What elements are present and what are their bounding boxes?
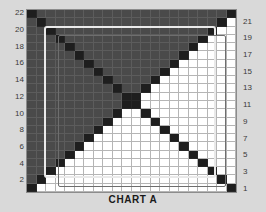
heatmap-cell [113,142,123,150]
heatmap-cell [122,43,132,51]
heatmap-cell [217,184,227,192]
heatmap-cell [227,51,237,59]
heatmap-cell [56,35,66,43]
left-value-axis: 222018161412108642 [2,9,24,193]
heatmap-cell [227,134,237,142]
heatmap-cell [94,35,104,43]
heatmap-cell [37,142,47,150]
heatmap-cell [75,60,85,68]
heatmap-cell [132,109,142,117]
heatmap-cell [46,68,56,76]
heatmap-cell [217,27,227,35]
heatmap-grid[interactable] [27,10,236,192]
heatmap-cell [160,134,170,142]
heatmap-cell [217,10,227,18]
heatmap-cell [84,51,94,59]
heatmap-cell [217,60,227,68]
heatmap-cell [56,109,66,117]
heatmap-cell [160,118,170,126]
heatmap-cell [27,159,37,167]
heatmap-cell [56,126,66,134]
heatmap-cell [94,184,104,192]
heatmap-cell [198,76,208,84]
heatmap-cell [65,51,75,59]
heatmap-cell [94,27,104,35]
heatmap-cell [160,84,170,92]
heatmap-cell [56,68,66,76]
heatmap-cell [46,109,56,117]
heatmap-cell [179,93,189,101]
heatmap-cell [179,134,189,142]
heatmap-cell [84,109,94,117]
heatmap-cell [65,27,75,35]
heatmap-cell [132,151,142,159]
heatmap-cell [103,101,113,109]
heatmap-cell [113,10,123,18]
heatmap-cell [208,142,218,150]
heatmap-cell [170,175,180,183]
heatmap-cell [189,151,199,159]
chart-plot-area[interactable] [26,9,237,193]
heatmap-cell [160,43,170,51]
heatmap-cell [198,101,208,109]
heatmap-cell [227,126,237,134]
heatmap-cell [179,101,189,109]
heatmap-cell [217,93,227,101]
heatmap-cell [103,118,113,126]
heatmap-cell [170,134,180,142]
heatmap-cell [103,51,113,59]
heatmap-cell [141,10,151,18]
heatmap-cell [65,43,75,51]
heatmap-cell [227,175,237,183]
heatmap-cell [94,118,104,126]
heatmap-cell [189,84,199,92]
heatmap-cell [122,159,132,167]
heatmap-cell [132,134,142,142]
left-axis-tick: 4 [2,160,24,168]
right-axis-tick: 7 [243,135,265,143]
heatmap-cell [65,151,75,159]
heatmap-cell [84,159,94,167]
heatmap-cell [75,142,85,150]
heatmap-cell [103,134,113,142]
heatmap-cell [84,142,94,150]
heatmap-cell [84,43,94,51]
heatmap-cell [151,84,161,92]
heatmap-cell [170,159,180,167]
heatmap-cell [132,84,142,92]
heatmap-cell [189,35,199,43]
heatmap-cell [122,10,132,18]
heatmap-cell [179,142,189,150]
heatmap-cell [65,60,75,68]
heatmap-cell [46,167,56,175]
heatmap-cell [217,159,227,167]
heatmap-cell [122,84,132,92]
chart-caption: CHART A [0,194,266,205]
heatmap-cell [170,184,180,192]
heatmap-cell [27,101,37,109]
heatmap-cell [75,84,85,92]
heatmap-cell [151,118,161,126]
heatmap-cell [179,76,189,84]
heatmap-cell [56,60,66,68]
heatmap-cell [170,10,180,18]
heatmap-cell [227,101,237,109]
heatmap-cell [27,109,37,117]
heatmap-cell [160,109,170,117]
heatmap-cell [160,68,170,76]
heatmap-cell [122,60,132,68]
heatmap-cell [170,84,180,92]
right-axis-tick: 13 [243,84,265,92]
heatmap-cell [46,151,56,159]
left-axis-tick: 18 [2,43,24,51]
heatmap-cell [208,126,218,134]
heatmap-cell [227,84,237,92]
heatmap-cell [56,43,66,51]
heatmap-cell [65,142,75,150]
heatmap-cell [160,184,170,192]
heatmap-cell [46,10,56,18]
heatmap-cell [27,68,37,76]
heatmap-cell [94,93,104,101]
heatmap-cell [46,126,56,134]
heatmap-cell [132,76,142,84]
